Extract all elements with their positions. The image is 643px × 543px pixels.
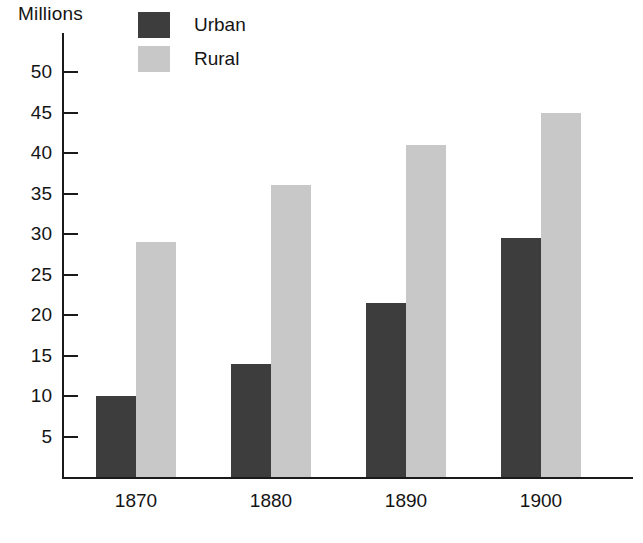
y-tick-15 [62, 355, 78, 357]
y-tick-30 [62, 233, 78, 235]
y-tick-label-50: 50 [6, 62, 52, 81]
y-tick-label-35: 35 [6, 184, 52, 203]
bar-urban-1880 [231, 364, 271, 477]
bar-urban-1890 [366, 303, 406, 477]
x-tick-label-1880: 1880 [226, 490, 316, 512]
y-tick-20 [62, 314, 78, 316]
y-tick-label-45: 45 [6, 103, 52, 122]
bar-rural-1880 [271, 185, 311, 477]
bar-rural-1900 [541, 113, 581, 478]
y-tick-label-15: 15 [6, 346, 52, 365]
y-tick-label-10: 10 [6, 386, 52, 405]
bar-urban-1900 [501, 238, 541, 477]
x-tick-label-1890: 1890 [361, 490, 451, 512]
y-tick-45 [62, 112, 78, 114]
plot-area: 5101520253035404550 1870188018901900 [0, 0, 643, 543]
x-tick-label-1900: 1900 [496, 490, 586, 512]
y-tick-label-5: 5 [6, 427, 52, 446]
y-tick-label-20: 20 [6, 305, 52, 324]
bar-urban-1870 [96, 396, 136, 477]
x-axis-line [62, 477, 633, 479]
y-axis-line [62, 33, 64, 479]
y-tick-label-30: 30 [6, 224, 52, 243]
bar-chart: Millions Urban Rural 5101520253035404550… [0, 0, 643, 543]
bar-rural-1870 [136, 242, 176, 477]
y-tick-50 [62, 71, 78, 73]
y-tick-35 [62, 193, 78, 195]
x-tick-label-1870: 1870 [91, 490, 181, 512]
y-tick-10 [62, 395, 78, 397]
y-tick-5 [62, 436, 78, 438]
y-tick-25 [62, 274, 78, 276]
y-tick-label-25: 25 [6, 265, 52, 284]
bar-rural-1890 [406, 145, 446, 477]
y-tick-40 [62, 152, 78, 154]
y-tick-label-40: 40 [6, 143, 52, 162]
